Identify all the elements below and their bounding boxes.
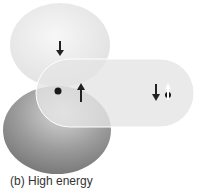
figure-caption: (b) High energy	[10, 174, 93, 188]
orbital-diagram	[0, 0, 205, 193]
electron-dot	[55, 88, 62, 95]
